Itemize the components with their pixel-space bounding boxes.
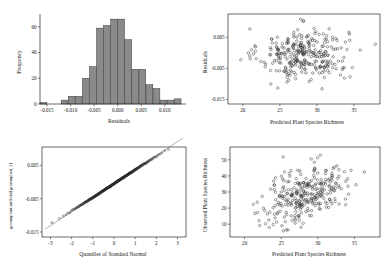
data-point [285,229,288,232]
x-tick-label: -0.010 [64,107,78,113]
data-point [343,170,346,173]
data-point [363,171,366,174]
data-point [51,222,53,224]
data-point [300,226,303,229]
data-point [313,161,316,164]
y-tick-label: -0.005 [25,196,39,202]
plot-frame [230,147,380,237]
data-point [298,214,301,217]
y-tick-label: -0.005 [211,65,225,71]
data-point [272,223,275,226]
data-point [316,156,319,159]
panel-residuals-vs-predicted: 202530350.005-0.005-0.015 Predicted Plan… [194,0,388,133]
data-point [285,211,288,214]
data-point [283,179,286,182]
data-point [168,149,170,151]
data-point [331,39,334,42]
data-point [339,74,342,77]
data-point [343,77,346,80]
data-point [247,52,250,55]
x-tick-label: 0.010 [159,107,171,113]
data-point [58,217,60,219]
obs-pred-xlabel: Predicted Plant Species Richness [272,251,346,257]
data-point [305,210,308,213]
data-point [278,70,281,73]
data-point [276,36,279,39]
histogram-bar [132,69,139,104]
data-point [299,18,302,21]
qq-ylabel: geomnplant.surftotal[geomnplant, 2] [8,162,14,229]
data-point [290,189,293,192]
x-tick-label: 30 [314,107,320,113]
y-tick-label: 40 [32,49,38,55]
data-point [338,175,341,178]
data-point [374,43,377,46]
data-point [315,198,318,201]
diagnostic-plot-figure: -0.015-0.010-0.0050.0000.0050.0100204060… [0,0,388,265]
data-point [316,41,319,44]
x-tick-label: -0.015 [40,107,54,113]
data-point [296,40,299,43]
data-point [328,71,331,74]
data-point [294,222,297,225]
data-point [297,169,300,172]
data-point [329,185,332,188]
resid-pred-ylabel: Residuals [202,51,208,73]
data-point [156,156,158,158]
data-point [312,44,315,47]
x-tick-label: 2 [155,240,158,246]
histogram-bars [40,19,181,104]
data-point [325,34,328,37]
data-point [294,214,297,217]
y-tick-label: 30 [222,189,228,195]
data-point [266,213,269,216]
data-point [326,46,329,49]
data-point [256,201,259,204]
data-point [326,69,329,72]
data-point [250,48,253,51]
data-point [326,193,329,196]
histogram-bar [68,96,75,104]
histogram-bar [118,19,125,104]
panel-residual-histogram: -0.015-0.010-0.0050.0000.0050.0100204060… [0,0,194,133]
data-point [287,188,290,191]
data-point [302,222,305,225]
data-point [281,178,284,181]
data-point [284,55,287,58]
data-point [269,69,272,72]
data-point [284,203,287,206]
data-point [331,179,334,182]
data-point [329,60,332,63]
data-point [273,213,276,216]
data-point [308,80,311,83]
qq-xlabel: Quantiles of Standard Normal [79,251,147,257]
data-point [310,209,313,212]
data-point [280,191,283,194]
obs-pred-points [252,154,366,232]
data-point [290,169,293,172]
data-point [335,68,338,71]
x-tick-label: -0.005 [88,107,102,113]
data-point [272,207,275,210]
data-point [334,63,337,66]
x-tick-label: 0 [113,240,116,246]
data-point [319,154,322,157]
x-tick-label: 35 [352,240,358,246]
data-point [334,200,337,203]
histogram-bar [167,100,174,104]
data-point [289,51,292,54]
data-point [291,219,294,222]
data-point [283,51,286,54]
x-tick-label: 1 [134,240,137,246]
data-point [312,174,315,177]
data-point [295,210,298,213]
data-point [301,200,304,203]
data-point [328,28,331,31]
data-point [293,31,296,34]
data-point [321,186,324,189]
data-point [343,56,346,59]
data-point [275,42,278,45]
data-point [321,71,324,74]
data-point [346,48,349,51]
data-point [284,220,287,223]
